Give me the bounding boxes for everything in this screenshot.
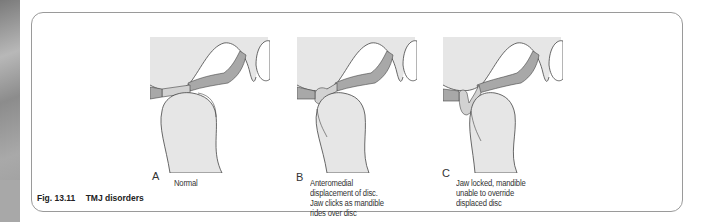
panel-c-label: C [442, 167, 450, 179]
figure-number: Fig. 13.11 [37, 193, 75, 203]
figure-caption: Fig. 13.11 TMJ disorders [37, 193, 152, 203]
page-edge-decoration [0, 0, 20, 222]
figure-title: TMJ disorders [86, 193, 144, 203]
tmj-locked-jaw-illustration [443, 37, 563, 173]
panel-b-label: B [296, 171, 303, 183]
panel-a-caption: Normal [174, 178, 198, 188]
tmj-anterior-disc-displacement-illustration [297, 37, 417, 173]
panel-a-label: A [152, 170, 159, 182]
panel-b-caption: Anteromedial displacement of disc. Jaw c… [310, 178, 384, 218]
tmj-normal-illustration [150, 37, 270, 173]
panel-c-caption: Jaw locked, mandible unable to override … [456, 178, 526, 208]
